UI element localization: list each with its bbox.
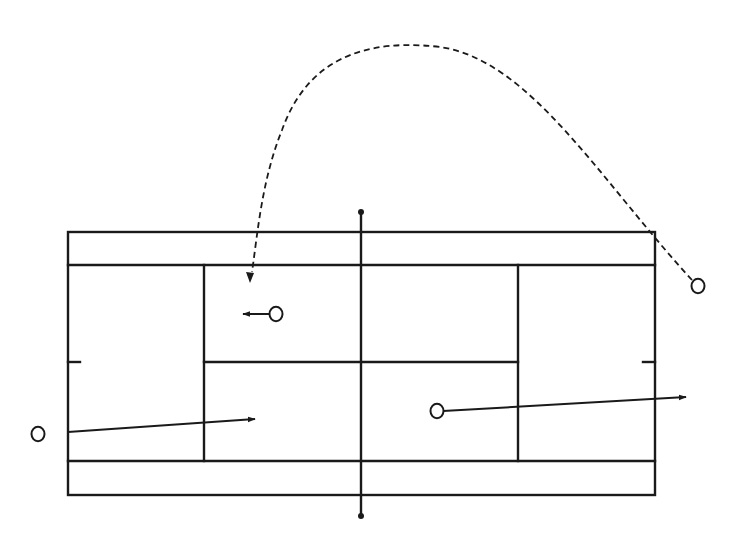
shot-lob [252, 45, 692, 280]
player-right-outside-icon [692, 279, 705, 294]
shot-paths [68, 45, 692, 432]
players [32, 279, 705, 442]
lob-arrowhead-icon [246, 272, 254, 283]
tennis-court-diagram: Tennis court shot diagram [0, 0, 748, 548]
player-left-outside-icon [32, 427, 45, 442]
player-bottom-right-service-box-icon [431, 404, 444, 419]
shot-left-drive [68, 419, 255, 432]
net-post-top-icon [358, 209, 364, 215]
player-top-left-service-box-icon [270, 307, 283, 322]
shot-right-drive [443, 397, 686, 411]
net-post-bottom-icon [358, 513, 364, 519]
net [358, 209, 364, 519]
